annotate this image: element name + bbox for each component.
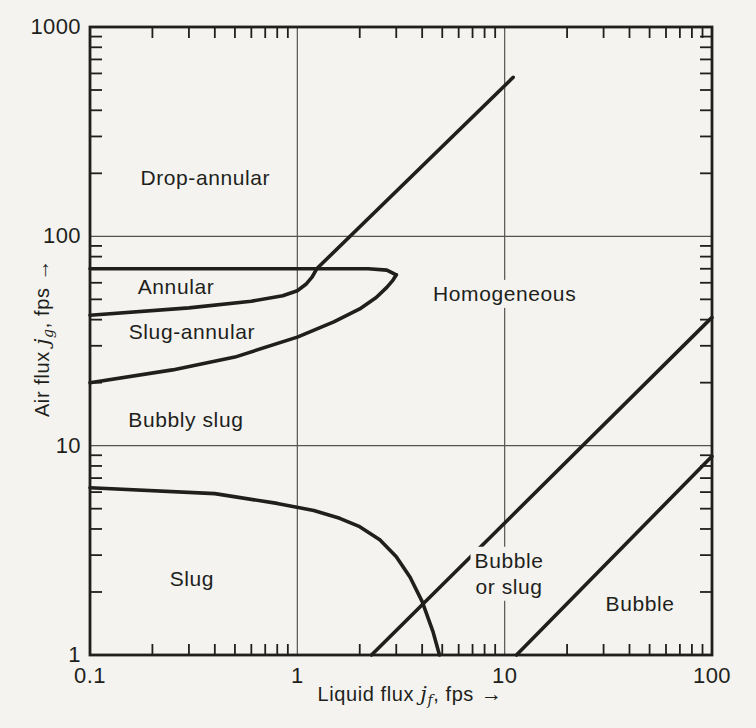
x-axis-label: Liquid flux jf, fps→ [317, 682, 502, 706]
boundary-bubble-left [517, 456, 713, 655]
y-axis-label-text: Air flux [31, 345, 53, 417]
flow-regime-chart [0, 0, 756, 728]
x-axis-label-text: Liquid flux [317, 683, 420, 705]
flow-regime-map-figure: Drop-annularAnnularSlug-annularBubbly sl… [0, 0, 756, 728]
liquid-flux-symbol: j [420, 682, 427, 706]
boundary-annular-homogeneous [90, 77, 513, 315]
boundary-annular-top [90, 269, 396, 275]
air-flux-symbol: j [30, 338, 54, 345]
x-axis-units: , fps [433, 683, 474, 705]
y-axis-units: , fps [31, 288, 53, 329]
air-flux-subscript: g [40, 328, 56, 338]
liquid-flux-subscript: f [427, 692, 433, 708]
boundary-bubble-or-slug-left [372, 317, 713, 655]
x-axis-arrow-icon: → [481, 682, 503, 706]
boundary-slug-top [90, 488, 440, 655]
boundary-slug-annular-bottom [90, 275, 396, 383]
y-axis-label: Air flux jg, fps→ [30, 259, 54, 417]
y-axis-arrow-icon: → [30, 259, 54, 281]
